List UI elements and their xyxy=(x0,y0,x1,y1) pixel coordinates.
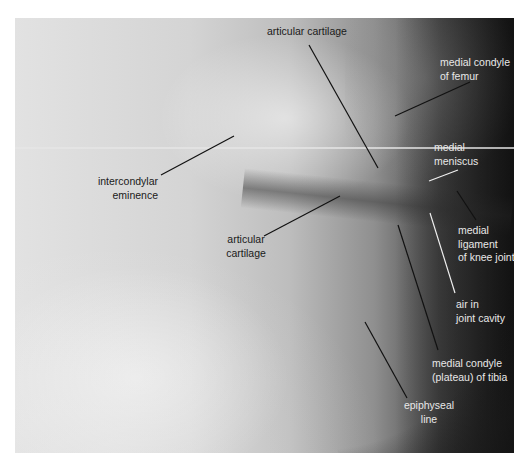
label-line: medial xyxy=(434,141,478,155)
label-line: ligament xyxy=(458,238,515,252)
label-line: epiphyseal xyxy=(402,399,456,413)
leader-articular-cartilage-top xyxy=(309,45,378,168)
leader-medial-meniscus xyxy=(429,170,458,181)
leader-epiphyseal-line xyxy=(365,322,407,398)
label-line: medial condyle xyxy=(440,56,510,70)
label-medial-condyle-tibia: medial condyle (plateau) of tibia xyxy=(432,357,507,384)
label-line: (plateau) of tibia xyxy=(432,371,507,385)
label-line: air in xyxy=(456,298,505,312)
label-line: of femur xyxy=(440,70,510,84)
leader-medial-condyle-tibia xyxy=(398,225,438,350)
label-line: of knee joint xyxy=(458,251,515,265)
label-intercondylar-eminence: intercondylar eminence xyxy=(62,175,158,202)
label-articular-cartilage-top: articular cartilage xyxy=(267,25,347,39)
label-line: joint cavity xyxy=(456,312,505,326)
label-line: line xyxy=(402,413,456,427)
label-line: meniscus xyxy=(434,155,478,169)
label-line: eminence xyxy=(62,189,158,203)
label-line: cartilage xyxy=(216,247,276,261)
label-medial-condyle-femur: medial condyle of femur xyxy=(440,56,510,83)
leader-air-joint-cavity xyxy=(430,213,455,293)
label-medial-ligament: medial ligament of knee joint xyxy=(458,224,515,265)
label-air-joint-cavity: air in joint cavity xyxy=(456,298,505,325)
leader-intercondylar-eminence xyxy=(161,136,234,175)
label-line: medial xyxy=(458,224,515,238)
leader-medial-condyle-femur xyxy=(395,82,470,116)
label-medial-meniscus: medial meniscus xyxy=(434,141,478,168)
leader-medial-ligament xyxy=(457,191,476,220)
leader-articular-cartilage-lower xyxy=(264,196,340,236)
label-line: medial condyle xyxy=(432,357,507,371)
label-articular-cartilage-lower: articular cartilage xyxy=(216,233,276,260)
label-epiphyseal-line: epiphyseal line xyxy=(402,399,456,426)
label-line: articular xyxy=(216,233,276,247)
label-line: articular cartilage xyxy=(267,25,347,39)
label-line: intercondylar xyxy=(62,175,158,189)
